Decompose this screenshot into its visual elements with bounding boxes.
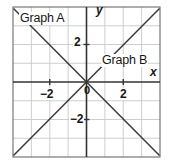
x-tick-label-neg2: −2 — [39, 88, 54, 100]
series-label-graph-b: Graph B — [101, 54, 148, 67]
y-tick-label-2: 2 — [73, 36, 81, 48]
series-label-graph-a: Graph A — [19, 12, 65, 25]
y-axis-label: y — [95, 4, 104, 16]
graph-figure: Graph A Graph B y x 2 −2 −2 2 0 — [0, 0, 172, 166]
y-tick-label-neg2: −2 — [69, 113, 84, 125]
origin-label: 0 — [83, 85, 91, 96]
x-tick-label-2: 2 — [119, 88, 127, 100]
x-axis-label: x — [149, 66, 158, 78]
